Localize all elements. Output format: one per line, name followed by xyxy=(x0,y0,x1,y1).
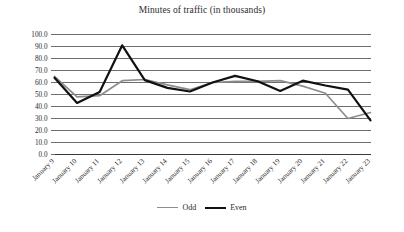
chart-legend: Odd Even xyxy=(0,203,404,212)
y-axis-tick-label: 50.0 xyxy=(35,91,48,99)
legend-swatch-even-icon xyxy=(205,207,226,209)
legend-label-even: Even xyxy=(230,203,246,212)
y-axis-tick-marks xyxy=(51,35,55,155)
y-axis-tick-label: 20.0 xyxy=(35,127,48,135)
y-axis-tick-labels: 100.090.080.070.060.050.040.030.020.010.… xyxy=(31,31,48,159)
x-axis-tick-labels: January 9January 10January 11January 12J… xyxy=(31,157,373,185)
y-axis-tick-label: 40.0 xyxy=(35,103,48,111)
y-axis-tick-label: 100.0 xyxy=(31,31,48,39)
legend-item-odd: Odd xyxy=(157,203,196,212)
legend-swatch-odd-icon xyxy=(157,207,178,208)
y-axis-tick-label: 30.0 xyxy=(35,115,48,123)
y-axis-tick-label: 80.0 xyxy=(35,55,48,63)
line-chart-plot: 100.090.080.070.060.050.040.030.020.010.… xyxy=(0,0,404,232)
y-axis-tick-label: 10.0 xyxy=(35,139,48,147)
chart-container: Minutes of traffic (in thousands) 100.09… xyxy=(0,0,404,232)
y-axis-tick-label: 60.0 xyxy=(35,79,48,87)
y-axis-tick-label: 90.0 xyxy=(35,43,48,51)
x-axis-tick-label: January 23 xyxy=(344,157,372,185)
y-axis-tick-label: 70.0 xyxy=(35,67,48,75)
legend-label-odd: Odd xyxy=(182,203,196,212)
legend-item-even: Even xyxy=(205,203,246,212)
y-axis-tick-label: 0.0 xyxy=(39,151,48,159)
